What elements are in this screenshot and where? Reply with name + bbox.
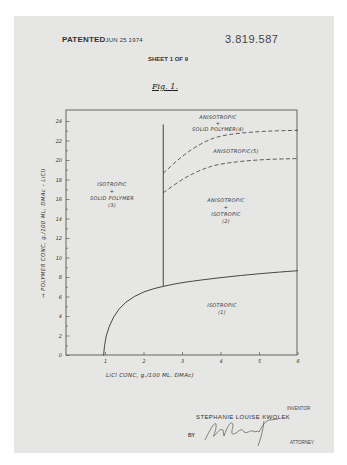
svg-text:(3): (3) xyxy=(108,202,116,208)
series-line-1 xyxy=(104,271,298,356)
attorney-caption: ATTORNEY xyxy=(290,440,314,445)
x-tick-label: 5 xyxy=(258,358,261,364)
y-tick-label: 14 xyxy=(56,216,62,222)
y-tick-label: 4 xyxy=(59,313,62,319)
svg-text:SOLID POLYMER: SOLID POLYMER xyxy=(90,195,134,201)
svg-text:ISOTROPIC: ISOTROPIC xyxy=(207,302,237,308)
x-tick-label: 4 xyxy=(219,358,222,364)
y-axis-tick-labels: 024681012141618202224 xyxy=(56,118,62,358)
attorney-signature xyxy=(205,419,278,446)
region-isotropic-solid-polymer-3: ISOTROPIC + SOLID POLYMER (3) xyxy=(90,181,134,208)
region-anisotropic-5: ANISOTROPIC(5) xyxy=(212,148,258,154)
chart-series xyxy=(104,124,298,355)
svg-text:+: + xyxy=(224,204,229,210)
inventor-caption: INVENTOR xyxy=(287,406,310,411)
y-tick-label: 0 xyxy=(59,352,62,358)
x-axis-title: LiCl CONC, g./100 ML. DMAc) xyxy=(106,372,194,379)
plot-frame xyxy=(66,110,297,355)
y-tick-label: 8 xyxy=(59,274,62,280)
by-label: BY xyxy=(188,432,195,438)
y-tick-label: 6 xyxy=(59,294,62,300)
series-line-4 xyxy=(163,159,298,193)
y-tick-label: 22 xyxy=(56,138,62,144)
phase-diagram-chart: 024681012141618202224 123456 ISOTROPIC +… xyxy=(0,0,347,465)
y-axis-title: → POLYMER CONC, g./100 ML. DMAc – LiCl) xyxy=(40,168,47,298)
svg-text:(1): (1) xyxy=(218,309,226,315)
svg-text:(2): (2) xyxy=(222,218,230,224)
y-tick-label: 16 xyxy=(56,196,62,202)
x-tick-label: 2 xyxy=(142,358,145,364)
x-axis-tick-labels: 123456 xyxy=(104,358,300,364)
y-tick-label: 10 xyxy=(56,255,62,261)
y-tick-label: 18 xyxy=(56,177,62,183)
svg-text:ISOTROPIC: ISOTROPIC xyxy=(211,211,241,217)
y-tick-label: 20 xyxy=(56,157,62,163)
svg-text:ANISOTROPIC(5): ANISOTROPIC(5) xyxy=(212,148,258,154)
svg-text:+: + xyxy=(110,188,115,194)
y-axis-ticks xyxy=(66,122,70,356)
x-tick-label: 3 xyxy=(181,358,184,364)
region-anisotropic-solid-polymer-4: ANISOTROPIC + SOLID POLYMER(4) xyxy=(192,114,244,132)
inventor-name: STEPHANIE LOUISE KWOLEK xyxy=(196,414,290,420)
svg-text:ANISOTROPIC: ANISOTROPIC xyxy=(206,197,245,203)
x-tick-label: 1 xyxy=(104,358,107,364)
x-axis-ticks xyxy=(106,352,299,355)
y-tick-label: 12 xyxy=(56,235,62,241)
y-tick-label: 2 xyxy=(59,333,62,339)
svg-text:ISOTROPIC: ISOTROPIC xyxy=(97,181,127,187)
x-tick-label: 6 xyxy=(296,358,299,364)
region-anisotropic-isotropic-2: ANISOTROPIC + ISOTROPIC (2) xyxy=(206,197,245,224)
region-isotropic-1: ISOTROPIC (1) xyxy=(207,302,237,315)
y-tick-label: 24 xyxy=(56,118,62,124)
svg-text:SOLID POLYMER(4): SOLID POLYMER(4) xyxy=(192,126,244,132)
